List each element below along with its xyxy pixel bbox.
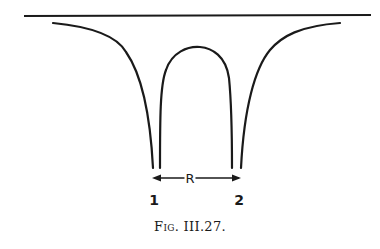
arrowhead-left-icon [152, 175, 161, 182]
left-outer-curve [53, 23, 153, 168]
point-label-1: 1 [149, 192, 159, 208]
central-barrier-curve [160, 47, 232, 168]
potential-diagram [0, 0, 380, 249]
point-label-2: 2 [234, 192, 244, 208]
right-outer-curve [241, 23, 340, 168]
arrowhead-right-icon [232, 175, 241, 182]
figure-caption: Fig. III.27. [0, 219, 380, 234]
baseline-asymptote [24, 15, 371, 16]
separation-label: R [184, 171, 195, 186]
